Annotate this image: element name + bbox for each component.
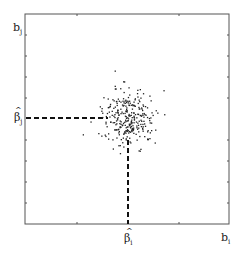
y-axis-label: bj [13, 22, 22, 36]
x-axis-label: bi [221, 232, 230, 246]
x-marker-label: βi [124, 233, 133, 247]
scatter-points [83, 71, 166, 155]
y-marker-label: βj [14, 112, 23, 126]
scatter-plot [0, 0, 243, 254]
